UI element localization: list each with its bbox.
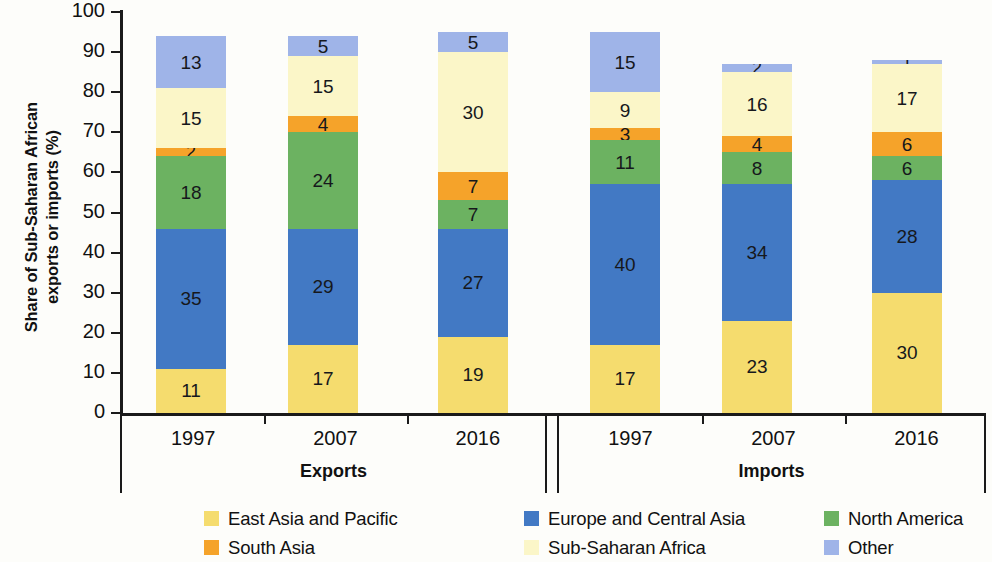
bar-segment: 40 — [590, 184, 660, 344]
group-label: Imports — [559, 461, 984, 482]
y-tick-label: 10 — [83, 360, 105, 382]
bar-segment: 18 — [156, 156, 226, 228]
bar-segment: 28 — [872, 180, 942, 292]
bar-segment: 13 — [156, 36, 226, 88]
chart-legend: East Asia and PacificEurope and Central … — [204, 504, 964, 562]
bar-segment: 17 — [872, 64, 942, 132]
legend-swatch-icon — [824, 511, 839, 526]
bar-exports-2007[interactable]: 1729244155 — [288, 12, 358, 413]
y-tick-label: 50 — [83, 200, 105, 222]
bar-segment: 27 — [438, 229, 508, 337]
y-tick: 100 — [111, 11, 120, 13]
y-tick-label: 0 — [94, 400, 105, 422]
legend-swatch-icon — [204, 540, 219, 555]
bar-segment: 17 — [288, 345, 358, 413]
bar-segment: 2 — [156, 148, 226, 156]
bar-segment: 30 — [438, 52, 508, 172]
bar-exports-1997[interactable]: 11351821513 — [156, 12, 226, 413]
plot-area: 0102030405060708090100 11351821513172924… — [120, 10, 986, 415]
bar-segment: 15 — [156, 88, 226, 148]
y-axis-title: Share of Sub-Saharan African exports or … — [21, 57, 63, 377]
bar-imports-2007[interactable]: 233484162 — [722, 12, 792, 413]
bar-segment: 19 — [438, 337, 508, 413]
bar-segment: 4 — [288, 116, 358, 132]
x-category-label: 2016 — [423, 427, 533, 450]
bar-segment: 11 — [590, 140, 660, 184]
bar-imports-1997[interactable]: 1740113915 — [590, 12, 660, 413]
y-tick: 60 — [111, 171, 120, 173]
legend-item-other[interactable]: Other — [824, 537, 984, 559]
bar-segment: 3 — [590, 128, 660, 140]
legend-swatch-icon — [824, 540, 839, 555]
y-tick-label: 80 — [83, 79, 105, 101]
legend-item-south-asia[interactable]: South Asia — [204, 537, 524, 559]
x-category-label: 1997 — [138, 427, 248, 450]
bar-segment: 24 — [288, 132, 358, 228]
x-category-label: 1997 — [576, 427, 686, 450]
y-tick-label: 30 — [83, 280, 105, 302]
y-tick: 90 — [111, 51, 120, 53]
y-tick: 20 — [111, 332, 120, 334]
y-tick: 40 — [111, 252, 120, 254]
bar-segment: 6 — [872, 132, 942, 156]
y-tick: 30 — [111, 292, 120, 294]
bar-segment: 29 — [288, 229, 358, 345]
y-axis-line — [120, 10, 123, 415]
category-divider — [702, 413, 704, 424]
bar-segment: 35 — [156, 229, 226, 369]
bar-segment: 16 — [722, 72, 792, 136]
bar-segment: 11 — [156, 369, 226, 413]
legend-label: Europe and Central Asia — [548, 508, 745, 530]
bar-segment: 34 — [722, 184, 792, 320]
stacked-bar-chart: Share of Sub-Saharan African exports or … — [0, 0, 992, 562]
category-axis: 199720072016Exports199720072016Imports — [120, 413, 986, 493]
y-tick-label: 40 — [83, 240, 105, 262]
bar-segment: 8 — [722, 152, 792, 184]
legend-item-sub-saharan-africa[interactable]: Sub-Saharan Africa — [524, 537, 824, 559]
bar-segment: 9 — [590, 92, 660, 128]
bar-exports-2016[interactable]: 192777305 — [438, 12, 508, 413]
y-tick: 70 — [111, 131, 120, 133]
y-tick-label: 100 — [72, 0, 105, 21]
legend-swatch-icon — [524, 540, 539, 555]
legend-label: East Asia and Pacific — [228, 508, 398, 530]
y-axis-title-line-2: exports or imports (%) — [42, 57, 63, 377]
group-exports: 199720072016Exports — [120, 413, 547, 493]
y-tick-label: 70 — [83, 119, 105, 141]
bar-segment: 5 — [288, 36, 358, 56]
bar-segment: 6 — [872, 156, 942, 180]
y-tick-label: 90 — [83, 39, 105, 61]
bar-segment: 30 — [872, 293, 942, 413]
bar-imports-2016[interactable]: 302866171 — [872, 12, 942, 413]
legend-label: Other — [848, 537, 894, 559]
y-tick-label: 20 — [83, 320, 105, 342]
category-divider — [407, 413, 409, 424]
bar-segment: 4 — [722, 136, 792, 152]
bar-segment: 5 — [438, 32, 508, 52]
category-divider — [264, 413, 266, 424]
y-tick: 50 — [111, 212, 120, 214]
legend-item-north-america[interactable]: North America — [824, 508, 984, 530]
x-category-label: 2007 — [281, 427, 391, 450]
y-tick-label: 60 — [83, 159, 105, 181]
legend-item-east-asia-and-pacific[interactable]: East Asia and Pacific — [204, 508, 524, 530]
category-divider — [845, 413, 847, 424]
group-label: Exports — [122, 461, 545, 482]
y-tick: 10 — [111, 372, 120, 374]
legend-item-europe-and-central-asia[interactable]: Europe and Central Asia — [524, 508, 824, 530]
x-category-label: 2007 — [719, 427, 829, 450]
x-category-label: 2016 — [862, 427, 972, 450]
bar-segment: 23 — [722, 321, 792, 413]
bar-segment: 7 — [438, 200, 508, 228]
group-imports: 199720072016Imports — [557, 413, 986, 493]
bar-segment: 7 — [438, 172, 508, 200]
bar-segment: 2 — [722, 64, 792, 72]
bar-segment: 17 — [590, 345, 660, 413]
legend-swatch-icon — [524, 511, 539, 526]
bar-segment: 15 — [590, 32, 660, 92]
legend-label: North America — [848, 508, 963, 530]
legend-label: Sub-Saharan Africa — [548, 537, 706, 559]
y-axis-title-line-1: Share of Sub-Saharan African — [21, 57, 42, 377]
y-tick: 0 — [111, 412, 120, 414]
bar-segment: 15 — [288, 56, 358, 116]
